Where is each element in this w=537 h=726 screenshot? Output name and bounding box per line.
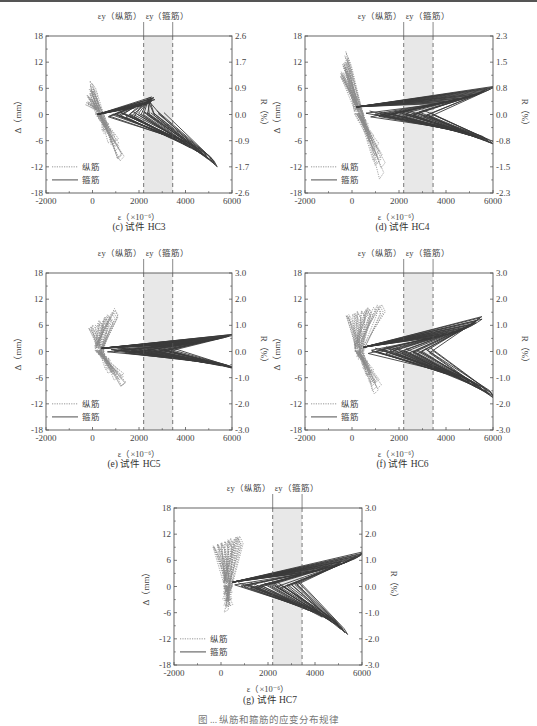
y-right-tick-label: 2.0 bbox=[365, 529, 377, 539]
y-right-tick-label: 0.0 bbox=[365, 582, 377, 592]
x-tick-label: 2000 bbox=[259, 668, 278, 678]
y-right-tick-label: 1.0 bbox=[365, 555, 377, 565]
y-right-tick-label: -1.0 bbox=[365, 608, 380, 618]
chart-g: εy（纵筋）εy（箍筋）-20000200040006000-18-3.0-12… bbox=[141, 483, 399, 694]
legend-stirrup-label: 箍筋 bbox=[210, 647, 228, 657]
y-tick-label: 6 bbox=[167, 555, 172, 565]
chart-title: (g) 试件 HC7 bbox=[130, 692, 410, 706]
y-tick-label: -6 bbox=[164, 608, 172, 618]
y-tick-label: -12 bbox=[159, 634, 171, 644]
yield-label-stirrup: εy（箍筋） bbox=[275, 483, 319, 493]
x-tick-label: 4000 bbox=[306, 668, 325, 678]
yield-label-long: εy（纵筋） bbox=[227, 483, 271, 493]
y-tick-label: 0 bbox=[167, 582, 172, 592]
legend-long-label: 纵筋 bbox=[210, 634, 228, 644]
y-right-tick-label: -3.0 bbox=[365, 660, 380, 670]
y-right-axis-label: R（%） bbox=[389, 571, 399, 603]
y-tick-label: 18 bbox=[162, 503, 172, 513]
x-tick-label: 0 bbox=[219, 668, 224, 678]
y-tick-label: -18 bbox=[159, 660, 171, 670]
y-tick-label: 12 bbox=[162, 529, 171, 539]
figure-caption: 图 ... 纵筋和箍筋的应变分布规律 bbox=[0, 712, 537, 726]
y-right-tick-label: 3.0 bbox=[365, 503, 377, 513]
y-right-tick-label: -2.0 bbox=[365, 634, 380, 644]
y-axis-label: Δ（mm） bbox=[141, 568, 151, 606]
